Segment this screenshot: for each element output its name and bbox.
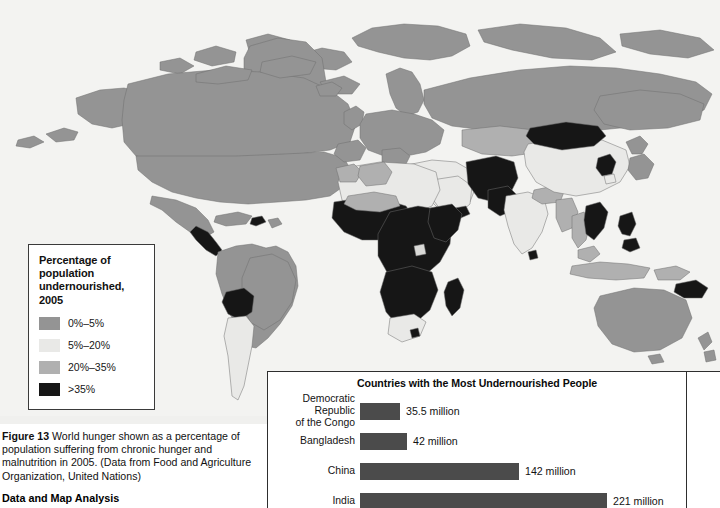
chart-label-drc-line2: of the Congo [268, 417, 355, 429]
figure-caption-block: Figure 13 World hunger shown as a percen… [2, 430, 254, 504]
chart-row-india: India 221 million [268, 486, 720, 508]
legend-label-5-20: 5%–20% [68, 339, 110, 352]
chart-label-bangladesh: Bangladesh [268, 435, 360, 447]
country-south-korea [604, 174, 616, 184]
country-lesotho [410, 328, 420, 338]
chart-rows: Democratic Republic of the Congo 35.5 mi… [268, 396, 720, 508]
chart-label-india: India [268, 495, 360, 507]
legend-swatch-20-35 [39, 361, 60, 374]
chart-row-china: China 142 million [268, 456, 720, 486]
legend-label-over-35: >35% [68, 383, 95, 396]
legend-item-0-5: 0%–5% [39, 314, 144, 333]
figure-caption: Figure 13 World hunger shown as a percen… [2, 430, 254, 483]
chart-panel-right-border [686, 372, 687, 508]
chart-row-drc: Democratic Republic of the Congo 35.5 mi… [268, 396, 720, 426]
country-algeria-tunisia [358, 162, 392, 186]
chart-value-bangladesh: 42 million [413, 435, 458, 447]
figure-page: Percentage of population undernourished,… [0, 0, 720, 508]
chart-label-drc-line1: Democratic Republic [268, 393, 355, 417]
chart-bar-drc [360, 403, 400, 420]
undernourished-bar-chart-panel: Countries with the Most Undernourished P… [267, 371, 720, 508]
chart-value-drc: 35.5 million [406, 405, 460, 417]
chart-label-drc: Democratic Republic of the Congo [268, 393, 360, 430]
legend-title: Percentage of population undernourished,… [39, 254, 144, 307]
chart-row-bangladesh: Bangladesh 42 million [268, 426, 720, 456]
chart-value-india: 221 million [613, 495, 664, 507]
figure-caption-label: Figure 13 [2, 430, 49, 442]
chart-bar-india [360, 493, 607, 508]
legend-swatch-5-20 [39, 339, 60, 352]
chart-bar-china [360, 463, 519, 480]
chart-label-china: China [268, 465, 360, 477]
legend-item-over-35: >35% [39, 380, 144, 399]
legend-label-20-35: 20%–35% [68, 361, 116, 374]
legend-swatch-0-5 [39, 317, 60, 330]
lake-victoria [414, 244, 426, 256]
legend-label-0-5: 0%–5% [68, 317, 104, 330]
legend-swatch-over-35 [39, 383, 60, 396]
country-sri-lanka [528, 250, 538, 260]
chart-title: Countries with the Most Undernourished P… [268, 372, 720, 389]
legend-item-5-20: 5%–20% [39, 336, 144, 355]
section-heading: Data and Map Analysis [2, 492, 254, 504]
map-legend: Percentage of population undernourished,… [28, 244, 155, 410]
chart-bar-bangladesh [360, 433, 407, 450]
legend-item-20-35: 20%–35% [39, 358, 144, 377]
chart-value-china: 142 million [525, 465, 576, 477]
